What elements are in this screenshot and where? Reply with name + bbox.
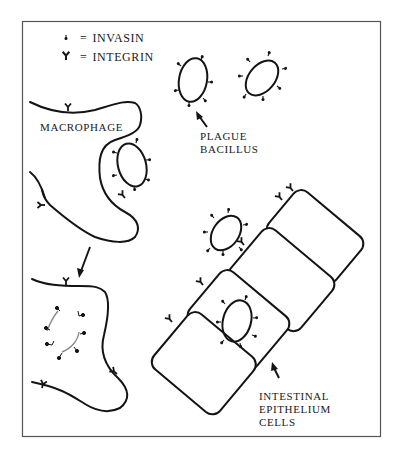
- legend-label-integrin: INTEGRIN: [92, 50, 153, 65]
- integrin-receptor: [118, 190, 127, 200]
- integrin-receptor: [275, 192, 284, 202]
- legend-eq: =: [80, 50, 87, 65]
- integrin-receptor: [65, 104, 71, 112]
- arrow-plague-bacillus: [196, 111, 207, 127]
- legend-invasin: = INVASIN: [61, 31, 144, 46]
- invasion-diagram: [0, 0, 401, 457]
- plague-bacillus: [174, 55, 213, 107]
- bacillus-binding-epithelium: [203, 208, 248, 256]
- label-line: INTESTINAL: [259, 390, 331, 403]
- arrow-epithelium: [271, 362, 279, 378]
- label-line: BACILLUS: [200, 143, 259, 156]
- integrin-receptor: [63, 278, 69, 286]
- label-line: PLAGUE: [200, 130, 259, 143]
- label-macrophage: MACROPHAGE: [40, 121, 123, 134]
- integrin-receptor: [196, 277, 205, 287]
- epithelium-cells: [148, 186, 368, 418]
- label-epithelium: INTESTINAL EPITHELIUM CELLS: [259, 390, 331, 429]
- integrin-receptor: [165, 314, 174, 324]
- integrin-receptor: [38, 202, 46, 208]
- label-line: EPITHELIUM: [259, 403, 331, 416]
- integrin-receptor: [286, 183, 295, 193]
- legend-eq: =: [80, 31, 87, 46]
- bacillus-in-pocket: [112, 138, 152, 192]
- engulfed-bacillus: [47, 311, 79, 352]
- plague-bacillus: [238, 51, 287, 102]
- legend-integrin: = INTEGRIN: [61, 50, 154, 65]
- arrow-macrophage-lower: [77, 247, 90, 278]
- legend-label-invasin: INVASIN: [92, 31, 144, 46]
- label-plague-bacillus: PLAGUE BACILLUS: [200, 130, 259, 156]
- label-line: CELLS: [259, 416, 331, 429]
